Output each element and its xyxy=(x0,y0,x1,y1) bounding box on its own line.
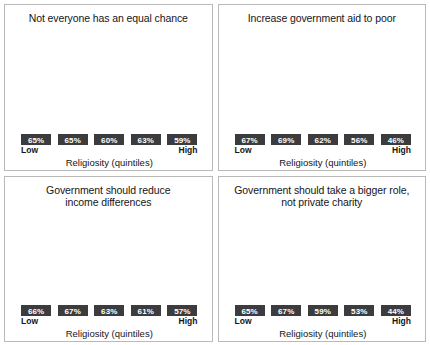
bar[interactable]: 60% xyxy=(94,134,124,145)
bar[interactable]: 62% xyxy=(308,134,338,145)
bar[interactable]: 67% xyxy=(235,134,265,145)
bar-slot: 67% xyxy=(271,305,301,316)
chart-panel-0: Not everyone has an equal chance 65%65%6… xyxy=(4,4,213,171)
x-axis-title-3: Religiosity (quintiles) xyxy=(235,328,412,339)
panel-title-line-2: not private charity xyxy=(225,196,420,208)
bar-slot: 56% xyxy=(344,134,374,145)
panel-title-1: Increase government aid to poor xyxy=(225,12,420,24)
bar-slot: 44% xyxy=(381,305,411,316)
bar-slot: 57% xyxy=(167,305,197,316)
bar-value-label: 63% xyxy=(138,136,154,145)
axis-low-label: Low xyxy=(235,316,252,326)
bar[interactable]: 53% xyxy=(344,305,374,316)
chart-panel-2: Government should reduce income differen… xyxy=(4,176,213,343)
plot-area-0: 65%65%60%63%59% Low High Religiosity (qu… xyxy=(21,24,198,167)
axis-end-labels-0: Low High xyxy=(21,145,198,156)
bar-value-label: 46% xyxy=(388,136,404,145)
axis-low-label: Low xyxy=(235,145,252,155)
bar[interactable]: 59% xyxy=(167,134,197,145)
bar[interactable]: 61% xyxy=(131,305,161,316)
bar-value-label: 53% xyxy=(351,307,367,316)
bar-value-label: 60% xyxy=(101,136,117,145)
chart-panel-3: Government should take a bigger role, no… xyxy=(218,176,427,343)
bar-slot: 60% xyxy=(94,134,124,145)
bar-slot: 65% xyxy=(58,134,88,145)
axis-high-label: High xyxy=(392,316,411,326)
bar-series-3: 65%67%59%53%44% xyxy=(235,208,412,317)
panel-title-line-1: Government should reduce xyxy=(11,184,206,196)
bar-series-0: 65%65%60%63%59% xyxy=(21,24,198,145)
bar[interactable]: 56% xyxy=(344,134,374,145)
panel-grid: Not everyone has an equal chance 65%65%6… xyxy=(0,0,430,345)
bar-value-label: 65% xyxy=(242,307,258,316)
chart-panel-1: Increase government aid to poor 67%69%62… xyxy=(218,4,427,171)
bar-value-label: 67% xyxy=(65,307,81,316)
axis-end-labels-3: Low High xyxy=(235,316,412,327)
plot-area-3: 65%67%59%53%44% Low High Religiosity (qu… xyxy=(235,208,412,339)
bar-slot: 69% xyxy=(271,134,301,145)
bar-slot: 59% xyxy=(308,305,338,316)
bar-value-label: 62% xyxy=(315,136,331,145)
axis-low-label: Low xyxy=(21,316,38,326)
bar-value-label: 67% xyxy=(242,136,258,145)
bar-slot: 63% xyxy=(131,134,161,145)
axis-high-label: High xyxy=(179,316,198,326)
bar[interactable]: 57% xyxy=(167,305,197,316)
bar-slot: 59% xyxy=(167,134,197,145)
bar-slot: 66% xyxy=(21,305,51,316)
bar-value-label: 67% xyxy=(278,307,294,316)
bar[interactable]: 69% xyxy=(271,134,301,145)
bar-series-1: 67%69%62%56%46% xyxy=(235,24,412,145)
bar-value-label: 56% xyxy=(351,136,367,145)
bar[interactable]: 65% xyxy=(21,134,51,145)
bar[interactable]: 63% xyxy=(94,305,124,316)
plot-area-2: 66%67%63%61%57% Low High Religiosity (qu… xyxy=(21,208,198,339)
panel-title-3: Government should take a bigger role, no… xyxy=(225,184,420,208)
axis-high-label: High xyxy=(392,145,411,155)
x-axis-title-1: Religiosity (quintiles) xyxy=(235,157,412,168)
bar[interactable]: 65% xyxy=(235,305,265,316)
panel-title-line-1: Government should take a bigger role, xyxy=(225,184,420,196)
bar-slot: 46% xyxy=(381,134,411,145)
bar[interactable]: 59% xyxy=(308,305,338,316)
bar-value-label: 44% xyxy=(388,307,404,316)
bar-value-label: 63% xyxy=(101,307,117,316)
x-axis-title-0: Religiosity (quintiles) xyxy=(21,157,198,168)
bar-slot: 53% xyxy=(344,305,374,316)
panel-title-2: Government should reduce income differen… xyxy=(11,184,206,208)
panel-title-line-1: Not everyone has an equal chance xyxy=(11,12,206,24)
bar-slot: 63% xyxy=(94,305,124,316)
bar-value-label: 59% xyxy=(315,307,331,316)
axis-end-labels-1: Low High xyxy=(235,145,412,156)
bar[interactable]: 46% xyxy=(381,134,411,145)
bar[interactable]: 67% xyxy=(58,305,88,316)
axis-end-labels-2: Low High xyxy=(21,316,198,327)
bar-value-label: 65% xyxy=(28,136,44,145)
bar-value-label: 57% xyxy=(174,307,190,316)
bar[interactable]: 67% xyxy=(271,305,301,316)
bar-value-label: 61% xyxy=(138,307,154,316)
bar[interactable]: 44% xyxy=(381,305,411,316)
bar-value-label: 65% xyxy=(65,136,81,145)
bar-slot: 67% xyxy=(58,305,88,316)
bar-slot: 65% xyxy=(235,305,265,316)
bar-slot: 67% xyxy=(235,134,265,145)
bar[interactable]: 66% xyxy=(21,305,51,316)
bar-series-2: 66%67%63%61%57% xyxy=(21,208,198,317)
bar-slot: 61% xyxy=(131,305,161,316)
bar-value-label: 66% xyxy=(28,307,44,316)
axis-high-label: High xyxy=(179,145,198,155)
panel-title-line-2: income differences xyxy=(11,196,206,208)
x-axis-title-2: Religiosity (quintiles) xyxy=(21,328,198,339)
bar[interactable]: 63% xyxy=(131,134,161,145)
panel-title-0: Not everyone has an equal chance xyxy=(11,12,206,24)
bar-slot: 65% xyxy=(21,134,51,145)
bar[interactable]: 65% xyxy=(58,134,88,145)
bar-value-label: 69% xyxy=(278,136,294,145)
bar-value-label: 59% xyxy=(174,136,190,145)
plot-area-1: 67%69%62%56%46% Low High Religiosity (qu… xyxy=(235,24,412,167)
bar-slot: 62% xyxy=(308,134,338,145)
axis-low-label: Low xyxy=(21,145,38,155)
panel-title-line-1: Increase government aid to poor xyxy=(225,12,420,24)
